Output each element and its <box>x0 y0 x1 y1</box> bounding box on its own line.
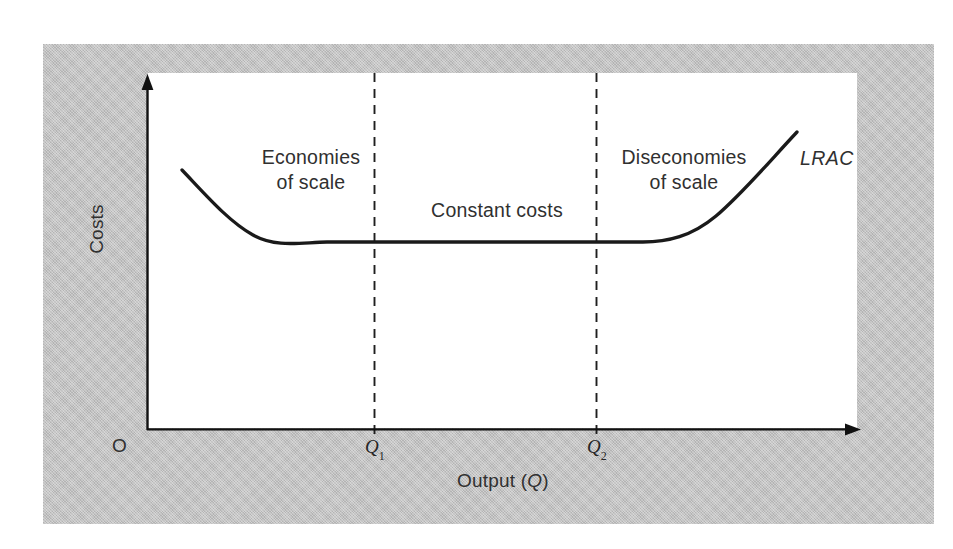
x-axis-title-suffix: ) <box>542 470 549 491</box>
x-tick-label-q1: Q1 <box>358 436 392 462</box>
annotation-diseconomies-line-1: Diseconomies <box>600 145 768 170</box>
x-tick-q2-base: Q <box>587 436 601 457</box>
annotation-diseconomies-of-scale: Diseconomies of scale <box>600 145 768 195</box>
x-axis-title-variable: Q <box>527 470 542 491</box>
annotation-constant-costs: Constant costs <box>413 198 581 223</box>
x-axis-title: Output (Q) <box>408 470 598 492</box>
y-axis-title: Costs <box>86 184 108 274</box>
annotation-diseconomies-line-2: of scale <box>600 170 768 195</box>
annotation-economies-line-1: Economies <box>243 145 379 170</box>
x-tick-q2-subscript: 2 <box>601 449 607 463</box>
annotation-economies-line-2: of scale <box>243 170 379 195</box>
figure-root: Economies of scale Constant costs Diseco… <box>0 0 953 549</box>
origin-label: O <box>112 435 127 457</box>
annotation-economies-of-scale: Economies of scale <box>243 145 379 195</box>
x-tick-q1-subscript: 1 <box>379 449 385 463</box>
x-tick-label-q2: Q2 <box>580 436 614 462</box>
curve-label-lrac: LRAC <box>800 147 854 170</box>
plot-area <box>148 73 857 428</box>
x-axis-title-prefix: Output ( <box>457 470 527 491</box>
x-tick-q1-base: Q <box>365 436 379 457</box>
